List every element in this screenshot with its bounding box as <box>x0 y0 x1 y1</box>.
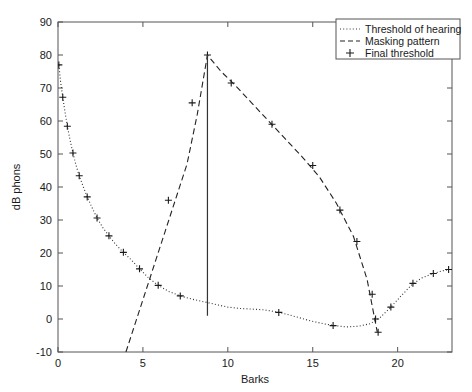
y-tick-label: 70 <box>40 82 52 94</box>
data-marker <box>76 172 83 179</box>
data-marker <box>64 123 71 130</box>
y-tick-label: 50 <box>40 148 52 160</box>
y-tick-label: 90 <box>40 16 52 28</box>
plot-frame <box>58 22 452 352</box>
legend-label-1: Masking pattern <box>365 35 440 47</box>
data-marker <box>275 309 282 316</box>
data-marker <box>430 270 437 277</box>
data-marker <box>136 265 143 272</box>
legend-label-0: Threshold of hearing <box>365 23 461 35</box>
x-tick-label: 20 <box>392 357 404 369</box>
x-tick-label: 5 <box>140 357 146 369</box>
data-marker <box>55 61 62 68</box>
y-tick-label: 40 <box>40 181 52 193</box>
series-line-0 <box>59 65 449 327</box>
series-line-1 <box>126 55 377 352</box>
y-tick-label: -10 <box>36 346 52 358</box>
data-marker <box>165 197 172 204</box>
data-marker <box>330 322 337 329</box>
chart-canvas: -10010203040506070809005101520BarksdB ph… <box>0 0 472 392</box>
y-tick-label: 80 <box>40 49 52 61</box>
y-tick-label: 0 <box>46 313 52 325</box>
data-marker <box>372 316 379 323</box>
x-tick-label: 10 <box>222 357 234 369</box>
data-marker <box>336 207 343 214</box>
data-marker <box>387 304 394 311</box>
data-marker <box>228 80 235 87</box>
data-marker <box>189 99 196 106</box>
x-tick-label: 15 <box>307 357 319 369</box>
data-marker <box>375 329 382 336</box>
data-marker <box>94 215 101 222</box>
x-axis-title: Barks <box>241 373 270 385</box>
data-marker <box>59 94 66 101</box>
y-tick-label: 20 <box>40 247 52 259</box>
data-marker <box>445 266 452 273</box>
data-marker <box>309 162 316 169</box>
legend-label-2: Final threshold <box>365 47 434 59</box>
y-tick-label: 60 <box>40 115 52 127</box>
figure-container: -10010203040506070809005101520BarksdB ph… <box>0 0 472 392</box>
data-marker <box>84 193 91 200</box>
data-marker <box>69 150 76 157</box>
y-tick-label: 10 <box>40 280 52 292</box>
x-tick-label: 0 <box>55 357 61 369</box>
data-marker <box>177 292 184 299</box>
data-marker <box>409 280 416 287</box>
y-axis-title: dB phons <box>10 163 22 210</box>
y-tick-label: 30 <box>40 214 52 226</box>
